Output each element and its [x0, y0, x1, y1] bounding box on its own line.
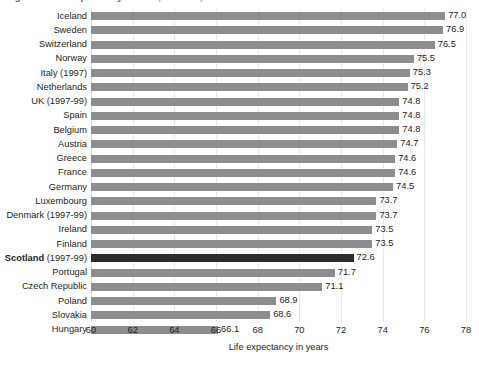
bar [91, 197, 376, 205]
x-tick-68: 68 [252, 324, 262, 336]
category-label: Austria [0, 138, 91, 151]
bar-value-label: 71.7 [335, 266, 356, 280]
bar-row: 75.3 [91, 66, 466, 80]
bar [91, 155, 395, 163]
x-tick-66: 66 [211, 324, 221, 336]
bar [91, 283, 322, 291]
bar [91, 183, 393, 191]
category-label: Greece [0, 152, 91, 165]
bar [91, 83, 408, 91]
bar-row: 73.5 [91, 223, 466, 237]
bar-value-label: 73.7 [376, 194, 397, 208]
bar [91, 41, 435, 49]
category-label: Netherlands [0, 81, 91, 94]
category-label: Iceland [0, 10, 91, 23]
category-label: Hungary [0, 323, 91, 336]
category-label: Sweden [0, 24, 91, 37]
category-label: Spain [0, 109, 91, 122]
bar-row: 75.5 [91, 52, 466, 66]
bar-row: 74.6 [91, 166, 466, 180]
bar [91, 212, 376, 220]
bar [91, 297, 276, 305]
bar-value-label: 77.0 [445, 9, 466, 23]
bar-value-label: 74.6 [395, 152, 416, 166]
bar-value-label: 76.9 [443, 23, 464, 37]
category-label: Switzerland [0, 38, 91, 51]
category-label: France [0, 166, 91, 179]
bar-value-label: 74.6 [395, 166, 416, 180]
bar-row: 76.9 [91, 23, 466, 37]
x-tick-70: 70 [294, 324, 304, 336]
bar-row: 73.7 [91, 194, 466, 208]
x-tick-76: 76 [419, 324, 429, 336]
bar-row: 68.6 [91, 308, 466, 322]
bar [91, 112, 399, 120]
bar-value-label: 73.5 [372, 237, 393, 251]
bar-row: 76.5 [91, 38, 466, 52]
x-axis-title: Life expectancy in years [91, 342, 466, 352]
bar-value-label: 72.6 [354, 251, 375, 265]
bar-value-label: 74.5 [393, 180, 414, 194]
category-label: Finland [0, 238, 91, 251]
category-label: Norway [0, 52, 91, 65]
category-axis: IcelandSwedenSwitzerlandNorwayItaly (199… [0, 9, 91, 322]
bar [91, 12, 445, 20]
bar-value-label: 75.3 [410, 66, 431, 80]
category-label: Belgium [0, 124, 91, 137]
category-label: Portugal [0, 266, 91, 279]
bar-row: 74.8 [91, 123, 466, 137]
gridline-78 [466, 9, 467, 322]
bar-value-label: 68.9 [276, 294, 297, 308]
bar [91, 98, 399, 106]
category-label: Luxembourg [0, 195, 91, 208]
category-label: Ireland [0, 223, 91, 236]
life-expectancy-bar-chart: Figure 1: Life expectancy at birth, fema… [0, 0, 479, 367]
bar-highlighted [91, 254, 354, 262]
category-label: Italy (1997) [0, 67, 91, 80]
bar [91, 169, 395, 177]
bar [91, 126, 399, 134]
bar-value-label: 74.8 [399, 109, 420, 123]
x-tick-74: 74 [377, 324, 387, 336]
bar-value-label: 68.6 [270, 308, 291, 322]
category-label: Scotland (1997-99) [0, 252, 91, 265]
bar-row: 74.7 [91, 137, 466, 151]
bar [91, 55, 414, 63]
category-label: Denmark (1997-99) [0, 209, 91, 222]
bar [91, 311, 270, 319]
x-tick-78: 78 [461, 324, 471, 336]
bar [91, 26, 443, 34]
category-label: UK (1997-99) [0, 95, 91, 108]
bar-row: 75.2 [91, 80, 466, 94]
bar-value-label: 76.5 [435, 38, 456, 52]
bar-value-label: 74.7 [397, 137, 418, 151]
plot-area: 77.076.976.575.575.375.274.874.874.874.7… [91, 9, 466, 322]
bar-value-label: 73.5 [372, 223, 393, 237]
category-label-emphasis: Scotland [5, 253, 44, 263]
bar [91, 69, 410, 77]
bar-row: 72.6 [91, 251, 466, 265]
bar-row: 74.8 [91, 95, 466, 109]
bar-value-label: 74.8 [399, 95, 420, 109]
x-tick-62: 62 [127, 324, 137, 336]
chart-title: Figure 1: Life expectancy at birth, fema… [6, 0, 476, 3]
bar-row: 74.8 [91, 109, 466, 123]
category-label: Czech Republic [0, 280, 91, 293]
bar [91, 269, 335, 277]
x-tick-72: 72 [336, 324, 346, 336]
bar-row: 68.9 [91, 294, 466, 308]
bar-value-label: 75.2 [408, 80, 429, 94]
bar-value-label: 71.1 [322, 280, 343, 294]
bar-value-label: 75.5 [414, 52, 435, 66]
bar-value-label: 74.8 [399, 123, 420, 137]
bar-row: 77.0 [91, 9, 466, 23]
bar [91, 140, 397, 148]
bar-row: 74.5 [91, 180, 466, 194]
bar-value-label: 73.7 [376, 209, 397, 223]
bar [91, 240, 372, 248]
category-label: Poland [0, 295, 91, 308]
x-tick-60: 60 [86, 324, 96, 336]
bar-row: 74.6 [91, 152, 466, 166]
bar [91, 226, 372, 234]
x-axis-tick-labels: 60626466687072747678 [91, 324, 466, 338]
